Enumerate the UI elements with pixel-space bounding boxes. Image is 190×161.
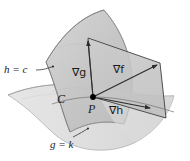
- figure-canvas: h = c g = k C P ∇g ∇f ∇h: [0, 0, 190, 161]
- label-h-equals-c: h = c: [4, 63, 27, 75]
- label-grad-f: ∇f: [112, 63, 125, 76]
- label-g-equals-k: g = k: [50, 138, 74, 150]
- label-point-P: P: [87, 102, 96, 116]
- point-P-marker: [90, 94, 96, 100]
- label-grad-h: ∇h: [108, 104, 123, 117]
- label-curve-C: C: [57, 92, 66, 106]
- label-grad-g: ∇g: [71, 66, 86, 79]
- vector-calculus-figure: h = c g = k C P ∇g ∇f ∇h: [0, 0, 190, 161]
